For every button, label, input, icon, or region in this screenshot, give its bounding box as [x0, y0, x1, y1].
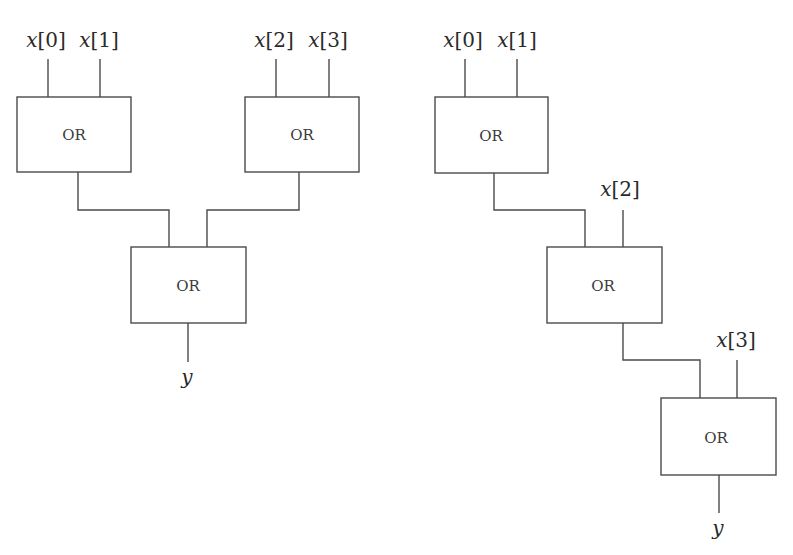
output-label-y: y	[180, 365, 193, 389]
or-gate-e: OR	[547, 247, 662, 323]
gate-label: OR	[290, 126, 314, 144]
or-gate-d: OR	[435, 97, 548, 173]
input-label-x2: x[2]	[600, 177, 640, 201]
or-gate-b: OR	[245, 97, 359, 172]
or-gate-c: OR	[131, 247, 246, 323]
or-gate-f: OR	[661, 398, 776, 475]
wire-gate-a-to-gate-c	[78, 172, 169, 247]
gate-label: OR	[479, 127, 503, 145]
input-label-x1: x[1]	[497, 28, 537, 52]
gate-label: OR	[176, 277, 200, 295]
output-label-y: y	[711, 516, 724, 540]
wire-gate-d-to-gate-e	[494, 173, 585, 247]
input-label-x2: x[2]	[254, 28, 294, 52]
or-gate-diagrams: x[0] x[1] x[2] x[3] OR OR OR y x[0] x[	[0, 0, 793, 555]
wire-gate-b-to-gate-c	[207, 172, 299, 247]
gate-label: OR	[704, 429, 728, 447]
wire-gate-e-to-gate-f	[623, 323, 700, 398]
input-label-x3: x[3]	[716, 328, 756, 352]
gate-label: OR	[62, 126, 86, 144]
input-label-x3: x[3]	[308, 28, 348, 52]
input-label-x0: x[0]	[26, 28, 66, 52]
input-label-x1: x[1]	[79, 28, 119, 52]
right-tree: x[0] x[1] OR x[2] OR x[3] OR y	[435, 28, 776, 540]
left-tree: x[0] x[1] x[2] x[3] OR OR OR y	[17, 28, 359, 389]
input-label-x0: x[0]	[443, 28, 483, 52]
or-gate-a: OR	[17, 97, 131, 172]
gate-label: OR	[591, 277, 615, 295]
